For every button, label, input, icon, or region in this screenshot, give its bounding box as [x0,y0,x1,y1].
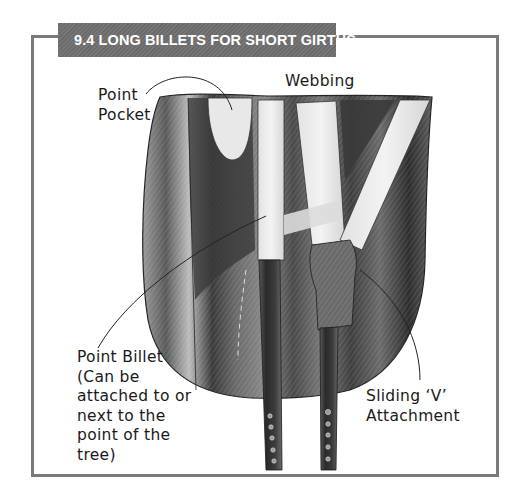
figure-title: 9.4 LONG BILLETS FOR SHORT GIRTHS [74,32,356,48]
label-webbing: Webbing [285,72,355,92]
label-sliding-v-attachment: Sliding ‘V’ Attachment [366,387,460,426]
label-point-billet: Point Billet (Can be attached to or next… [77,348,191,465]
label-point-pocket: Point Pocket [98,86,151,125]
figure-title-tab: 9.4 LONG BILLETS FOR SHORT GIRTHS [58,23,336,57]
